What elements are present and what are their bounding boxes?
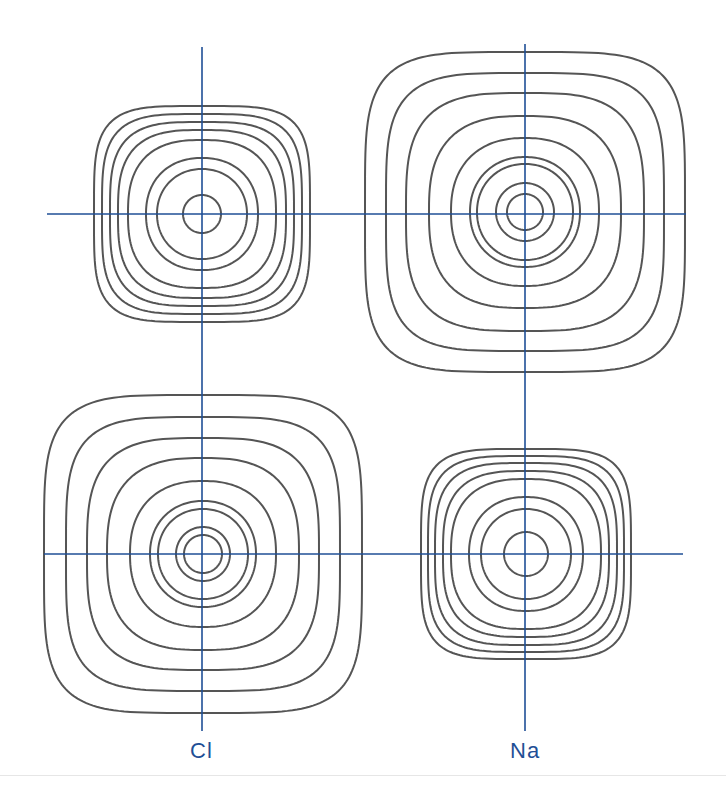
cl-label: Cl (190, 740, 213, 762)
na-label: Na (510, 740, 540, 762)
bottom-divider (0, 775, 726, 776)
contour-diagram (0, 0, 726, 802)
contour-group (44, 52, 685, 713)
